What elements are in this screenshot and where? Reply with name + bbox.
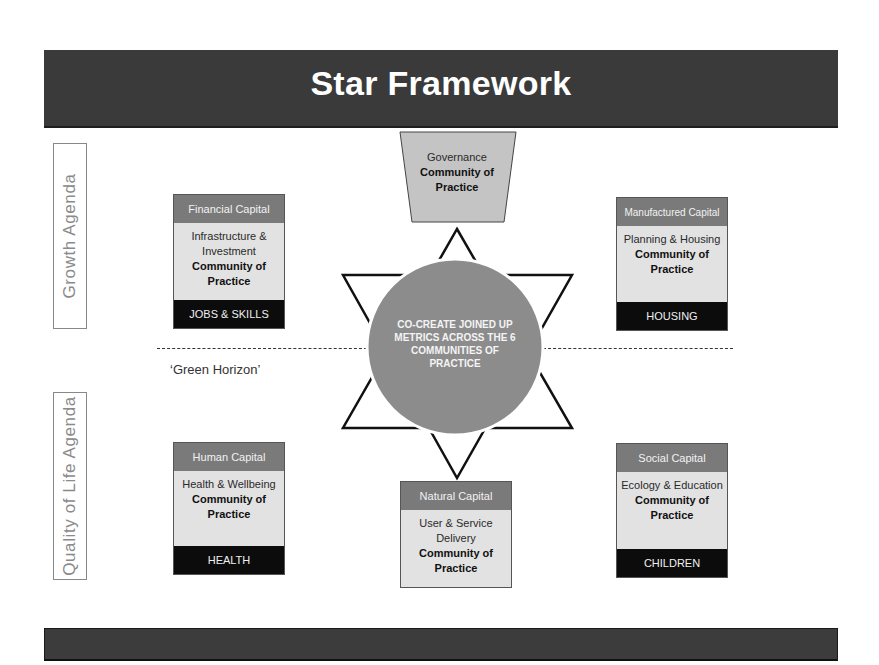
human-capital-box: Human Capital Health & Wellbeing Communi… [173, 442, 285, 575]
footer-bar [44, 628, 838, 661]
natural-capital-header: Natural Capital [401, 482, 511, 510]
manufactured-capital-footer: HOUSING [617, 302, 727, 330]
social-capital-box: Social Capital Ecology & Education Commu… [616, 443, 728, 578]
social-capital-community: Community of Practice [621, 493, 723, 523]
financial-capital-footer: JOBS & SKILLS [174, 300, 284, 328]
human-capital-footer: HEALTH [174, 546, 284, 574]
natural-capital-community: Community of Practice [405, 546, 507, 576]
manufactured-capital-desc: Planning & Housing [624, 233, 721, 245]
financial-capital-body: Infrastructure & Investment Community of… [174, 223, 284, 289]
center-statement: CO-CREATE JOINED UP METRICS ACROSS THE 6… [385, 318, 525, 370]
social-capital-body: Ecology & Education Community of Practic… [617, 472, 727, 523]
human-capital-header: Human Capital [174, 443, 284, 471]
manufactured-capital-header: Manufactured Capital [617, 198, 727, 226]
governance-community-label: Community of Practice [404, 165, 510, 195]
financial-capital-header: Financial Capital [174, 195, 284, 223]
natural-capital-box: Natural Capital User & Service Delivery … [400, 481, 512, 588]
manufactured-capital-box: Manufactured Capital Planning & Housing … [616, 197, 728, 331]
governance-community: Governance Community of Practice [404, 150, 510, 195]
human-capital-desc: Health & Wellbeing [182, 478, 275, 490]
social-capital-footer: CHILDREN [617, 549, 727, 577]
manufactured-capital-body: Planning & Housing Community of Practice [617, 226, 727, 277]
governance-label: Governance [427, 151, 487, 163]
social-capital-desc: Ecology & Education [621, 479, 723, 491]
natural-capital-body: User & Service Delivery Community of Pra… [401, 510, 511, 576]
natural-capital-desc: User & Service Delivery [419, 517, 492, 544]
financial-capital-box: Financial Capital Infrastructure & Inves… [173, 194, 285, 329]
manufactured-capital-community: Community of Practice [621, 247, 723, 277]
human-capital-body: Health & Wellbeing Community of Practice [174, 471, 284, 522]
financial-capital-community: Community of Practice [178, 259, 280, 289]
social-capital-header: Social Capital [617, 444, 727, 472]
financial-capital-desc: Infrastructure & Investment [191, 230, 266, 257]
human-capital-community: Community of Practice [178, 492, 280, 522]
